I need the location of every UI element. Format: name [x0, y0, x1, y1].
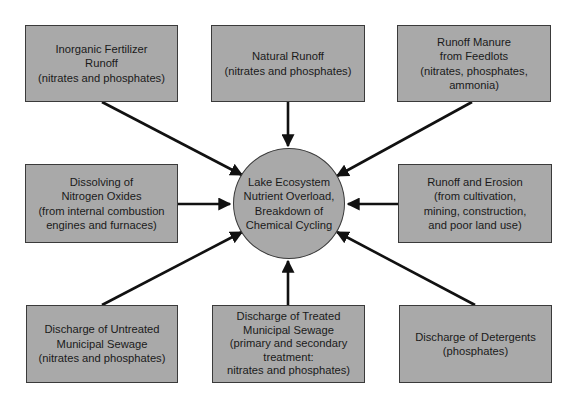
source-box-runoff-erosion: Runoff and Erosion (from cultivation, mi… [398, 164, 552, 243]
source-label: Discharge of Detergents (phosphates) [415, 330, 536, 359]
source-box-natural-runoff: Natural Runoff (nitrates and phosphates) [211, 25, 365, 102]
source-label: Dissolving of Nitrogen Oxides (from inte… [38, 175, 164, 233]
source-box-treated-sewage: Discharge of Treated Municipal Sewage (p… [212, 305, 365, 383]
source-label: Natural Runoff (nitrates and phosphates) [225, 49, 352, 78]
source-label: Runoff Manure from Feedlots (nitrates, p… [420, 35, 528, 93]
source-label: Discharge of Treated Municipal Sewage (p… [227, 310, 350, 378]
center-label: Lake Ecosystem Nutrient Overload, Breakd… [244, 175, 335, 233]
source-box-inorganic-fertilizer: Inorganic Fertilizer Runoff (nitrates an… [25, 25, 178, 102]
source-box-detergents: Discharge of Detergents (phosphates) [399, 305, 552, 383]
source-label: Runoff and Erosion (from cultivation, mi… [424, 175, 527, 233]
source-label: Discharge of Untreated Municipal Sewage … [39, 322, 166, 366]
nutrient-overload-diagram: Inorganic Fertilizer Runoff (nitrates an… [0, 0, 578, 395]
source-box-untreated-sewage: Discharge of Untreated Municipal Sewage … [26, 305, 178, 383]
source-label: Inorganic Fertilizer Runoff (nitrates an… [38, 42, 165, 86]
center-lake-ecosystem: Lake Ecosystem Nutrient Overload, Breakd… [233, 148, 345, 259]
source-box-manure-feedlots: Runoff Manure from Feedlots (nitrates, p… [397, 25, 551, 102]
source-box-nitrogen-oxides: Dissolving of Nitrogen Oxides (from inte… [25, 164, 178, 243]
